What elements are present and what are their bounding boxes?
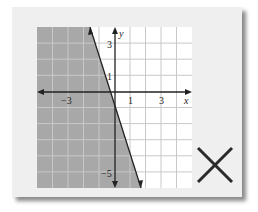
x-tick-1: 1 [128,95,133,106]
coordinate-graph: y x −3 1 3 3 1 −5 [37,27,192,188]
x-tick-neg3: −3 [61,95,72,106]
y-tick-1: 1 [107,71,112,82]
y-axis-label: y [118,28,124,39]
y-tick-neg5: −5 [101,168,112,179]
incorrect-x-mark [196,146,234,184]
graph-card: y x −3 1 3 3 1 −5 [12,7,242,197]
x-axis-label: x [183,95,189,106]
x-tick-3: 3 [159,95,164,106]
y-tick-3: 3 [107,39,112,50]
